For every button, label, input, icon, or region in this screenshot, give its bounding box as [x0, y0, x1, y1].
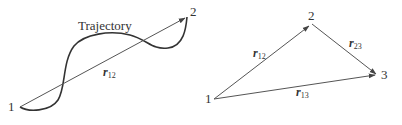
- vector-r23-label: r23: [349, 36, 362, 51]
- vector-r13-line: [214, 75, 375, 99]
- point-1-label: 1: [8, 99, 15, 114]
- right-diagram: 1 2 3 r12 r23 r13: [205, 8, 388, 106]
- vector-r12-label-right: r12: [253, 46, 266, 61]
- vector-r23-line: [312, 24, 376, 74]
- vector-r13-label: r13: [296, 85, 309, 100]
- point-2-label: 2: [190, 4, 197, 19]
- trajectory-label: Trajectory: [78, 18, 132, 33]
- point-1-label-right: 1: [205, 91, 212, 106]
- point-2-label-right: 2: [308, 8, 315, 23]
- vector-r12-line-right: [214, 26, 309, 99]
- left-diagram: Trajectory 1 2 r12: [8, 4, 197, 114]
- vector-r12-label: r12: [103, 65, 116, 80]
- point-3-label-right: 3: [381, 67, 388, 82]
- diagram-canvas: Trajectory 1 2 r12 1 2 3 r12 r23 r13: [0, 0, 402, 125]
